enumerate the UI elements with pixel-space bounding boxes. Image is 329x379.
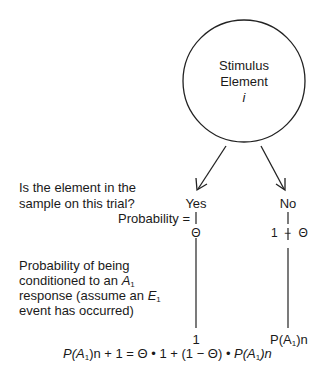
equation: P(A1)n + 1 = Θ • 1 + (1 − Θ) • P(A1)n [63, 346, 272, 362]
node-label-line1: Stimulus [204, 58, 284, 74]
no-outcome-prefix: P(A [270, 332, 292, 347]
eq-lhs-p: P( [63, 346, 76, 361]
question-line2: sample on this trial? [19, 196, 135, 212]
conditioning-line1: Probability of being [19, 258, 130, 274]
node-label-line2: Element [204, 74, 284, 90]
conditioning-line3-text: response (assume an [19, 288, 148, 303]
conditioning-line4: event has occurred) [19, 303, 134, 319]
eq-middle: )n + 1 = Θ • 1 + (1 − Θ) • [89, 346, 234, 361]
no-branch-arrow [261, 146, 284, 189]
yes-label: Yes [176, 196, 216, 212]
yes-branch-arrow [198, 146, 226, 189]
eq-rhs-a: A [247, 346, 256, 361]
eq-lhs-a: A [76, 346, 85, 361]
conditioning-line3: response (assume an E1 [19, 288, 161, 304]
no-outcome: P(A1)n [270, 332, 308, 348]
conditioning-line2: conditioned to an A1 [19, 273, 135, 289]
no-probability-theta: Θ [298, 226, 307, 240]
probability-label: Probability = [60, 211, 190, 227]
eq-rhs-rest: )n [260, 346, 272, 361]
no-label: No [268, 196, 308, 212]
node-symbol: i [204, 90, 284, 106]
conditioning-a-var: A [122, 273, 131, 288]
no-probability-one: 1 [271, 226, 278, 240]
conditioning-e-var: E [148, 288, 157, 303]
conditioning-e-sub: 1 [156, 295, 160, 304]
question-line1: Is the element in the [19, 180, 136, 196]
node-symbol-text: i [243, 90, 246, 105]
no-outcome-suffix: )n [296, 332, 308, 347]
eq-rhs-p: P( [234, 346, 247, 361]
no-probability-minus: − [284, 226, 291, 240]
no-probability: 1 − Θ [271, 225, 308, 241]
conditioning-line2-text: conditioned to an [19, 273, 122, 288]
yes-probability: Θ [186, 225, 206, 241]
